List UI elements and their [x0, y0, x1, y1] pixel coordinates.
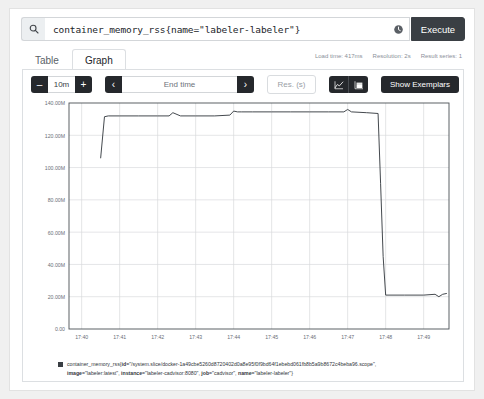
stacked-chart-icon[interactable]	[348, 76, 368, 93]
query-stats: Load time: 417ms Resolution: 2s Result s…	[315, 53, 462, 59]
chart-type-toggle-group	[329, 76, 368, 93]
result-series-stat: Result series: 1	[421, 53, 462, 59]
x-axis-tick-label: 17:44	[227, 334, 240, 340]
legend-id-value: ="/system.slice/docker-1a49cbe5260d87204…	[126, 361, 376, 367]
query-input[interactable]: container_memory_rss{name="labeler-label…	[45, 17, 387, 41]
prometheus-graph-page: container_memory_rss{name="labeler-label…	[9, 8, 475, 391]
data-series-line	[101, 109, 447, 296]
x-axis-tick-label: 17:45	[265, 334, 278, 340]
range-decrement-button[interactable]: –	[31, 76, 48, 93]
y-axis-tick-label: 60.00M	[48, 230, 65, 236]
range-stepper: – 10m +	[31, 76, 92, 93]
graph-controls: – 10m + ‹ End time › Res. (s)	[31, 76, 459, 93]
legend-instance-key: instance	[121, 370, 142, 376]
y-axis-tick-label: 140.00M	[45, 100, 65, 106]
legend-job-key: job	[201, 370, 209, 376]
y-axis-tick-label: 80.00M	[48, 197, 65, 203]
range-increment-button[interactable]: +	[75, 76, 92, 93]
legend-job-value: ="cadvisor",	[209, 370, 236, 376]
x-axis-tick-label: 17:48	[379, 334, 392, 340]
legend-instance-value: ="labeler-cadvisor:8080",	[142, 370, 200, 376]
time-next-button[interactable]: ›	[237, 76, 254, 93]
resolution-stat: Resolution: 2s	[373, 53, 411, 59]
x-axis-tick-label: 17:49	[417, 334, 430, 340]
memory-usage-chart: 0.0020.00M40.00M60.00M80.00M100.00M120.0…	[31, 99, 455, 351]
line-chart-icon[interactable]	[329, 76, 348, 93]
load-time-stat: Load time: 417ms	[315, 53, 363, 59]
legend-name-key: name	[238, 370, 252, 376]
x-axis-tick-label: 17:47	[341, 334, 354, 340]
legend-color-swatch	[58, 362, 63, 367]
time-previous-button[interactable]: ‹	[105, 76, 122, 93]
show-exemplars-button[interactable]: Show Exemplars	[381, 76, 459, 93]
legend-image-key: image	[67, 370, 82, 376]
legend-item[interactable]: container_memory_rss{id="/system.slice/d…	[58, 361, 458, 369]
x-axis-tick-label: 17:46	[303, 334, 316, 340]
legend-metric-name: container_memory_rss	[67, 361, 120, 367]
range-input[interactable]: 10m	[48, 76, 75, 93]
legend-text-line-2: image="labeler:latest", instance="labele…	[67, 369, 458, 377]
chart-legend: container_memory_rss{id="/system.slice/d…	[58, 361, 458, 377]
y-axis-tick-label: 0.00	[55, 326, 65, 332]
resolution-input[interactable]: Res. (s)	[267, 75, 316, 94]
y-axis-tick-label: 120.00M	[45, 133, 65, 139]
query-row: container_memory_rss{name="labeler-label…	[21, 17, 465, 41]
legend-text-line-1: container_memory_rss{id="/system.slice/d…	[67, 361, 376, 369]
search-icon	[21, 17, 45, 41]
history-clock-icon[interactable]	[387, 17, 410, 41]
y-axis-tick-label: 40.00M	[48, 262, 65, 268]
execute-button[interactable]: Execute	[411, 17, 465, 41]
x-axis-tick-label: 17:41	[113, 334, 126, 340]
y-axis-tick-label: 100.00M	[45, 165, 65, 171]
end-time-stepper: ‹ End time ›	[105, 76, 254, 93]
x-axis-tick-label: 17:42	[151, 334, 164, 340]
legend-name-value: ="labeler-labeler"}	[252, 370, 293, 376]
chart-svg: 0.0020.00M40.00M60.00M80.00M100.00M120.0…	[31, 99, 455, 351]
x-axis-tick-label: 17:40	[75, 334, 88, 340]
x-axis-tick-label: 17:43	[189, 334, 202, 340]
legend-image-value: ="labeler:latest",	[82, 370, 120, 376]
end-time-input[interactable]: End time	[122, 76, 237, 93]
y-axis-tick-label: 20.00M	[48, 294, 65, 300]
